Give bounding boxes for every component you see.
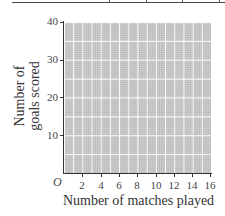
x-axis-title: Number of matches played (56, 193, 221, 209)
origin-label: O (53, 175, 62, 190)
x-tick-4 (101, 173, 102, 177)
x-tick-label: 12 (164, 180, 184, 191)
x-tick-label: 4 (91, 180, 111, 191)
y-tick-20 (60, 97, 64, 98)
table-column-divider (109, 0, 110, 3)
x-tick-label: 14 (182, 180, 202, 191)
plot-area-grid (64, 22, 211, 173)
y-tick-30 (60, 60, 64, 61)
y-tick-40 (60, 22, 64, 23)
x-tick-14 (192, 173, 193, 177)
x-tick-6 (119, 173, 120, 177)
x-tick-label: 16 (200, 180, 220, 191)
y-axis-title-line-2: goals scored (27, 51, 42, 141)
x-tick-10 (156, 173, 157, 177)
table-column-divider (146, 0, 147, 3)
table-column-divider (219, 0, 220, 3)
x-tick-label: 10 (146, 180, 166, 191)
x-tick-16 (210, 173, 211, 177)
x-tick-12 (174, 173, 175, 177)
x-tick-label: 6 (109, 180, 129, 191)
x-tick-8 (137, 173, 138, 177)
y-axis-title: Number of goals scored (10, 55, 44, 137)
x-tick-2 (82, 173, 83, 177)
y-tick-label: 40 (38, 16, 58, 27)
x-tick-label: 2 (72, 180, 92, 191)
table-bottom-border (12, 0, 225, 3)
y-tick-10 (60, 135, 64, 136)
y-axis-title-line-1: Number of (12, 51, 27, 141)
table-column-divider (182, 0, 183, 3)
x-tick-label: 8 (127, 180, 147, 191)
